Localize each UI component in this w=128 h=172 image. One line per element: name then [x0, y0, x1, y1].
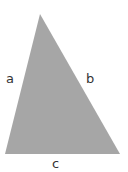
side-label-c: c: [52, 157, 59, 170]
triangle-diagram: [0, 0, 128, 172]
side-label-a: a: [6, 72, 14, 85]
side-label-b: b: [86, 72, 94, 85]
triangle-shape: [5, 14, 120, 154]
